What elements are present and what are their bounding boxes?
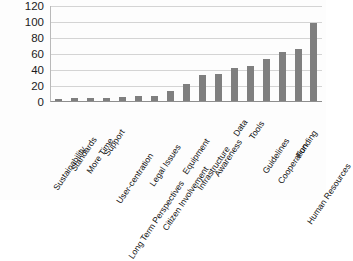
bar-slot (179, 6, 195, 101)
bar-slot (194, 6, 210, 101)
bar[interactable] (295, 49, 302, 101)
bar[interactable] (183, 84, 190, 101)
bar[interactable] (119, 97, 126, 101)
x-axis-tick-label: Tools (248, 120, 266, 141)
bar-slot (147, 6, 163, 101)
y-axis-tick-label: 0 (38, 96, 44, 108)
bar[interactable] (199, 75, 206, 101)
bar-slot (274, 6, 290, 101)
bar[interactable] (247, 66, 254, 101)
bar[interactable] (71, 98, 78, 101)
bar[interactable] (263, 59, 270, 101)
x-axis-tick-label: Human Resources (306, 162, 353, 226)
bar[interactable] (215, 74, 222, 101)
bar[interactable] (151, 96, 158, 101)
bar-slot (67, 6, 83, 101)
y-axis-tick-label: 40 (31, 64, 44, 76)
bar-slot (258, 6, 274, 101)
bar-slot (115, 6, 131, 101)
plot-area (50, 6, 322, 102)
bar[interactable] (87, 98, 94, 101)
bar-slot (99, 6, 115, 101)
bar-slot (131, 6, 147, 101)
y-axis-tick-label: 100 (25, 16, 44, 28)
bar[interactable] (310, 23, 317, 101)
bar-slot (83, 6, 99, 101)
bar-slot (51, 6, 67, 101)
bar-slot (226, 6, 242, 101)
bar-slot (210, 6, 226, 101)
bar[interactable] (135, 96, 142, 101)
y-axis: 120100806040200 (0, 6, 48, 102)
bar[interactable] (231, 68, 238, 101)
bar[interactable] (279, 52, 286, 101)
bar-slot (306, 6, 322, 101)
y-axis-tick-label: 60 (31, 48, 44, 60)
bar[interactable] (167, 91, 174, 101)
x-axis: SustainabilityStandardsMore TimeSupportU… (50, 103, 322, 200)
bar-slot (290, 6, 306, 101)
bar[interactable] (103, 98, 110, 101)
y-axis-tick-label: 20 (31, 80, 44, 92)
x-axis-tick-label: Funding (294, 129, 318, 160)
bar-slot (163, 6, 179, 101)
y-axis-tick-label: 80 (31, 32, 44, 44)
bar[interactable] (55, 99, 62, 101)
bars-container (51, 6, 322, 101)
y-axis-tick-label: 120 (25, 0, 44, 12)
bar-slot (242, 6, 258, 101)
